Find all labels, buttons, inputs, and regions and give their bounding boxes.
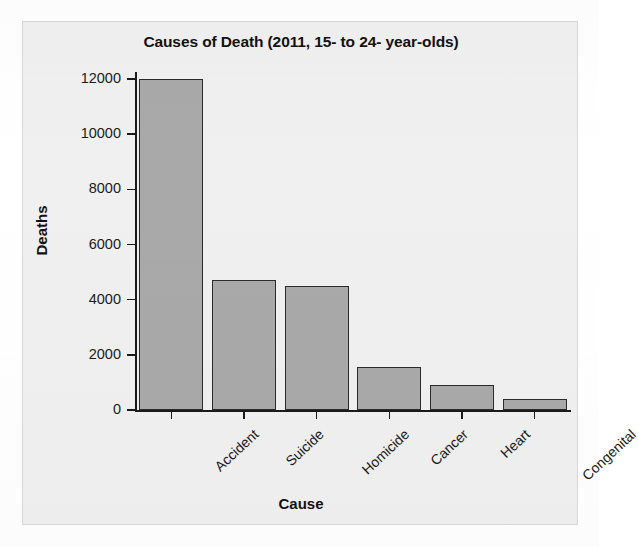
- y-tick-mark: [127, 409, 135, 411]
- x-tick-mark: [316, 411, 318, 419]
- bar: [139, 79, 203, 410]
- y-tick-mark: [127, 78, 135, 80]
- y-tick-label: 4000: [35, 291, 121, 307]
- y-tick-mark: [127, 189, 135, 191]
- y-tick-mark: [127, 354, 135, 356]
- chart-figure-panel: Causes of Death (2011, 15- to 24- year-o…: [22, 21, 578, 525]
- bar: [357, 367, 421, 410]
- x-category-label: Heart: [497, 426, 533, 461]
- x-axis-title: Cause: [23, 495, 579, 512]
- x-tick-mark: [243, 411, 245, 419]
- x-axis-line: [135, 410, 571, 412]
- x-category-label: Congenital: [579, 426, 639, 483]
- x-tick-mark: [171, 411, 173, 419]
- y-tick-label: 2000: [35, 346, 121, 362]
- x-category-label: Homicide: [358, 426, 412, 478]
- y-tick-label: 12000: [35, 70, 121, 86]
- x-category-label: Accident: [212, 426, 262, 474]
- bar: [212, 280, 276, 410]
- y-tick-mark: [127, 133, 135, 135]
- x-tick-mark: [461, 411, 463, 419]
- bar: [430, 385, 494, 410]
- plot-area: 120001000080006000400020000 AccidentSuic…: [23, 22, 579, 526]
- y-tick-mark: [127, 244, 135, 246]
- y-tick-label: 10000: [35, 125, 121, 141]
- x-tick-mark: [534, 411, 536, 419]
- x-category-label: Suicide: [282, 426, 326, 469]
- y-tick-label: 0: [35, 401, 121, 417]
- bar: [285, 286, 349, 410]
- x-category-label: Cancer: [427, 426, 471, 468]
- y-tick-label: 8000: [35, 180, 121, 196]
- x-tick-mark: [389, 411, 391, 419]
- bar: [503, 399, 567, 410]
- y-tick-label: 6000: [35, 236, 121, 252]
- y-tick-mark: [127, 299, 135, 301]
- y-axis-line: [135, 72, 137, 411]
